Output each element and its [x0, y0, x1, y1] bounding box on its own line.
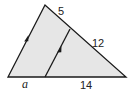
- label-segment-12: 12: [92, 37, 104, 49]
- parallel-arrow-icon: [24, 35, 28, 42]
- triangle-diagram: 5 12 a 14: [0, 0, 130, 89]
- label-segment-5: 5: [58, 5, 64, 17]
- label-segment-a: a: [22, 77, 28, 89]
- label-segment-14: 14: [80, 79, 92, 89]
